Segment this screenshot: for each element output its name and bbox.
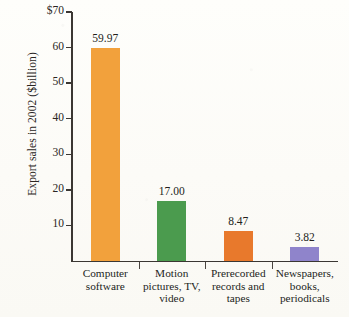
x-category-label-line: Motion [139, 267, 206, 280]
x-category-label: Prerecordedrecords andtapes [205, 267, 272, 305]
bar-value-label: 59.97 [75, 32, 135, 44]
x-category-label-line: books, [272, 280, 339, 293]
y-tick-label: 50 [24, 75, 64, 87]
x-category-label-line: Newspapers, [272, 267, 339, 280]
x-category-label-line: records and [205, 280, 272, 293]
x-category-label-line: Computer [72, 267, 139, 280]
y-tick-label: 30 [24, 146, 64, 158]
x-category-label-line: tapes [205, 292, 272, 305]
x-category-label-line: pictures, TV, [139, 280, 206, 293]
y-tick-label: 60 [24, 40, 64, 52]
x-category-label: Newspapers,books,periodicals [272, 267, 339, 305]
bar-value-label: 17.00 [142, 185, 202, 197]
y-tick-label: 20 [24, 182, 64, 194]
x-category-label-line: software [72, 280, 139, 293]
bar-value-label: 3.82 [275, 231, 335, 243]
y-tick-label: $70 [24, 4, 64, 16]
bar [157, 201, 186, 261]
x-category-label-line: periodicals [272, 292, 339, 305]
y-tick-label: 40 [24, 111, 64, 123]
x-category-label-line: Prerecorded [205, 267, 272, 280]
bar [91, 48, 120, 261]
bar-series [72, 12, 338, 261]
bar-value-label: 8.47 [208, 215, 268, 227]
y-tick-label: 10 [24, 217, 64, 229]
bar [224, 231, 253, 261]
x-category-label-line: video [139, 292, 206, 305]
bar-chart: Export sales in 2002 ($billion) $7060504… [0, 0, 349, 317]
x-category-label: Motionpictures, TV,video [139, 267, 206, 305]
bar [290, 247, 319, 261]
x-category-label: Computersoftware [72, 267, 139, 292]
